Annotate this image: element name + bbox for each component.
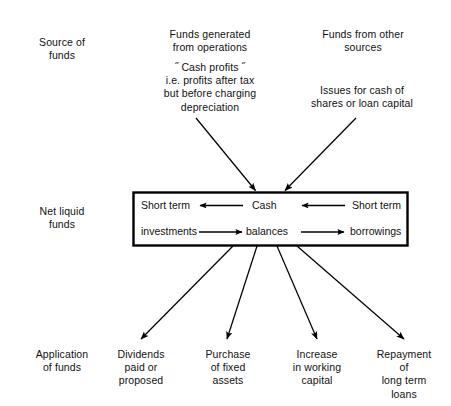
application-repayment-long-term-loans: Repayment of long term loans: [362, 348, 446, 401]
box-label-borrowings: borrowings: [350, 225, 401, 238]
application-purchase-fixed-assets: Purchase of fixed assets: [187, 348, 269, 388]
diagram-canvas: Source of funds Net liquid funds Applica…: [0, 0, 451, 406]
source-issues-for-cash: Issues for cash of shares or loan capita…: [287, 84, 437, 110]
box-label-short-term-left: Short term: [141, 199, 190, 212]
source-cash-profits-note: ˝ Cash profits ˝ i.e. profits after tax …: [135, 61, 285, 114]
arrow-to-increase-working-capital: [277, 246, 317, 339]
source-funds-generated: Funds generated from operations: [145, 28, 275, 54]
arrow-to-repayment-long-term-loans: [297, 246, 404, 339]
arrow-to-purchase-fixed-assets: [227, 246, 257, 339]
source-funds-other-sources: Funds from other sources: [293, 28, 433, 54]
box-label-short-term-right: Short term: [352, 199, 401, 212]
box-label-investments: investments: [141, 225, 197, 238]
box-label-cash: Cash: [252, 199, 277, 212]
box-label-balances: balances: [246, 225, 288, 238]
row-label-application-of-funds: Application of funds: [12, 348, 112, 374]
arrow-other-sources-to-cash: [285, 118, 356, 191]
application-dividends: Dividends paid or proposed: [100, 348, 182, 388]
row-label-source-of-funds: Source of funds: [12, 36, 112, 62]
arrow-operations-to-cash: [196, 118, 256, 191]
application-increase-working-capital: Increase in working capital: [273, 348, 361, 388]
row-label-net-liquid-funds: Net liquid funds: [12, 205, 112, 231]
arrow-to-dividends: [141, 246, 233, 339]
